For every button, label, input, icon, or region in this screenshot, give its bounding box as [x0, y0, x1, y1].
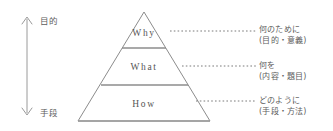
axis-label-means: 手段: [40, 109, 59, 118]
pyramid-tier-label-how: How: [69, 99, 219, 109]
annotation-how: どのように (手段・方法): [259, 95, 307, 117]
annotation-why: 何のために (目的・意義): [259, 24, 307, 46]
annotation-what: 何を (内容・題目): [259, 60, 307, 82]
pyramid-tier-labels: Why What How: [70, 0, 220, 131]
diagram-canvas: 目的 手段 Why What How 何のために (目的・意義) 何を (内容・…: [0, 0, 333, 131]
annotation-what-line1: 何を: [259, 61, 275, 70]
annotation-why-line2: (目的・意義): [259, 35, 307, 46]
annotation-why-line1: 何のために: [259, 25, 300, 34]
axis-labels-group: 目的 手段: [0, 0, 80, 131]
pyramid-tier-label-why: Why: [69, 28, 219, 38]
annotation-how-line2: (手段・方法): [259, 106, 307, 117]
annotation-how-line1: どのように: [259, 96, 300, 105]
pyramid-tier-label-what: What: [69, 62, 219, 72]
annotation-what-line2: (内容・題目): [259, 71, 307, 82]
axis-label-purpose: 目的: [40, 17, 59, 26]
